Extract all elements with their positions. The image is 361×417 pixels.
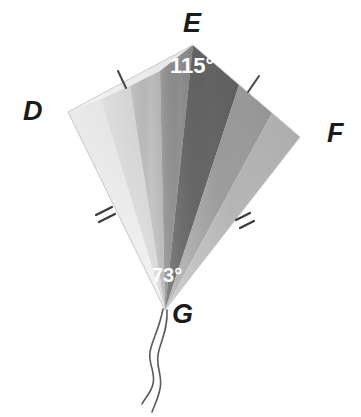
tick-DG <box>96 207 115 222</box>
kite-figure: D E F G 115° 73° <box>0 0 361 417</box>
angle-label-G: 73° <box>152 265 182 285</box>
angle-label-E: 115° <box>170 55 214 77</box>
vertex-label-G: G <box>172 301 193 328</box>
strut-right-icon <box>248 76 259 92</box>
vertex-label-F: F <box>327 120 344 147</box>
vertex-label-D: D <box>23 98 43 125</box>
apex-vignette <box>68 45 300 310</box>
sector-group <box>68 45 300 310</box>
vertex-label-E: E <box>183 10 201 37</box>
